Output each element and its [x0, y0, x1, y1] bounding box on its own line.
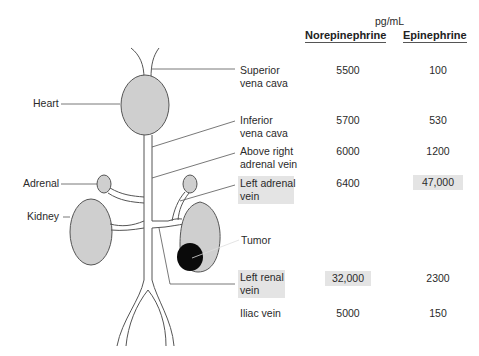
epinephrine-value: 1200 [418, 145, 458, 158]
norepinephrine-value: 6000 [328, 145, 368, 158]
tumor-shape [177, 243, 203, 271]
norepinephrine-value-highlighted: 32,000 [325, 271, 371, 286]
epinephrine-value: 100 [418, 64, 458, 77]
neck-vessel-left [131, 48, 144, 78]
site-label-above-right-adrenal-vein: Above rightadrenal vein [240, 145, 297, 171]
column-header-epinephrine: Epinephrine [403, 29, 467, 43]
site-label-iliac-vein: Iliac vein [240, 307, 281, 320]
adrenal-label: Adrenal [23, 177, 59, 189]
site-label-left-renal-vein: Left renalvein [238, 270, 285, 298]
epinephrine-value: 530 [418, 114, 458, 127]
epinephrine-value: 2300 [418, 272, 458, 285]
heart-label: Heart [33, 97, 59, 109]
heart-shape [121, 75, 169, 135]
norepinephrine-value: 5700 [328, 114, 368, 127]
tumor-label: Tumor [241, 234, 271, 246]
right-kidney-shape [70, 199, 112, 265]
site-label-left-adrenal-vein: Left adrenalvein [238, 176, 294, 204]
right-adrenal-shape [97, 175, 111, 193]
column-header-norepinephrine: Norepinephrine [305, 29, 386, 43]
site-label-inferior-vena-cava: Inferiorvena cava [240, 114, 288, 140]
epinephrine-value: 150 [418, 307, 458, 320]
site-label-superior-vena-cava: Superiorvena cava [240, 64, 288, 90]
norepinephrine-value: 6400 [328, 177, 368, 190]
units-label: pg/mL [375, 15, 404, 27]
neck-vessel-right [151, 48, 159, 78]
norepinephrine-value: 5000 [328, 307, 368, 320]
left-adrenal-shape [183, 175, 197, 193]
norepinephrine-value: 5500 [328, 64, 368, 77]
epinephrine-value-highlighted: 47,000 [413, 175, 463, 190]
kidney-label: Kidney [27, 210, 59, 222]
